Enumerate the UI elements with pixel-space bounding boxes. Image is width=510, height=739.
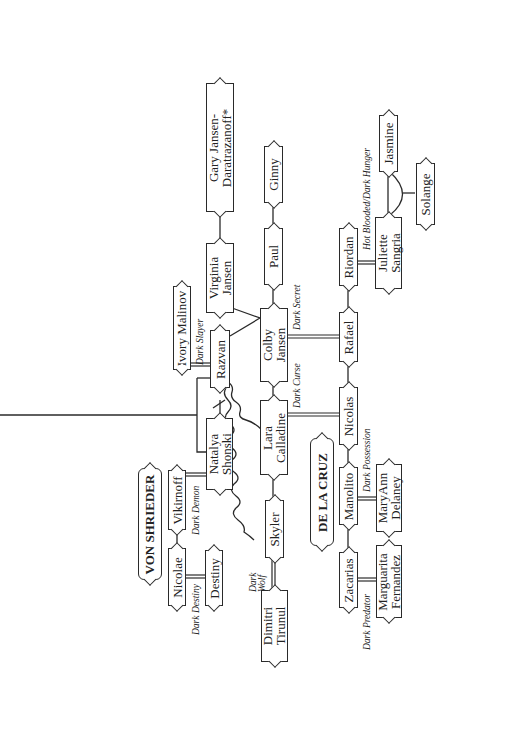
- family-von-shrieder: VON SHRIEDER: [138, 468, 162, 580]
- person-maryann: MaryAnn Delaney: [376, 464, 402, 532]
- person-nicolae: Nicolae: [168, 548, 186, 606]
- family-label: VON SHRIEDER: [144, 474, 157, 574]
- book-label: Hot Blooded/Dark Hunger: [362, 148, 372, 250]
- person-dimitri: Dimitri Tirunul: [261, 590, 288, 662]
- book-label: Dark Slayer: [195, 319, 205, 365]
- connector-lines: [0, 0, 510, 739]
- person-ginny: Ginny: [264, 146, 283, 203]
- person-skyler: Skyler: [265, 500, 284, 558]
- person-gary: Gary Jansen-Daratrazanoff*: [206, 83, 234, 212]
- person-destiny: Destiny: [205, 550, 223, 606]
- book-label: Dark Destiny: [191, 584, 201, 635]
- person-zacarias: Zacarias: [339, 552, 358, 608]
- book-label: Dark Secret: [292, 285, 302, 330]
- family-label: DE LA CRUZ: [316, 453, 329, 532]
- book-label: Dark Curse: [292, 363, 302, 408]
- person-razvan: Razvan: [210, 330, 230, 388]
- person-manolito: Manolito: [339, 467, 358, 525]
- person-solange: Solange: [416, 163, 435, 225]
- person-lara: Lara Calladine: [260, 400, 288, 475]
- family-de-la-cruz: DE LA CRUZ: [310, 438, 334, 546]
- person-juliette: Juliette Sangria: [375, 217, 402, 289]
- book-label: Dark Predator: [362, 594, 372, 650]
- person-paul: Paul: [264, 228, 283, 285]
- person-rafael: Rafael: [339, 312, 358, 362]
- person-colby: Colby Jansen: [260, 308, 288, 382]
- person-nicolas: Nicolas: [339, 387, 358, 445]
- person-vikirnoff: Vikirnoff: [168, 470, 186, 530]
- person-ivory: Ivory Malinov: [173, 286, 191, 370]
- person-virginia: Virginia Jansen: [206, 243, 234, 313]
- person-jasmine: Jasmine: [379, 115, 398, 172]
- book-label: Dark Demon: [191, 486, 201, 535]
- person-marguarita: Marguarita Fernandez: [376, 545, 402, 618]
- person-riordan: Riordan: [339, 228, 358, 286]
- book-label: Dark Possession: [362, 428, 372, 492]
- book-label: Dark Wolf: [249, 570, 267, 592]
- person-natalya: Natalya Shonski: [206, 418, 233, 490]
